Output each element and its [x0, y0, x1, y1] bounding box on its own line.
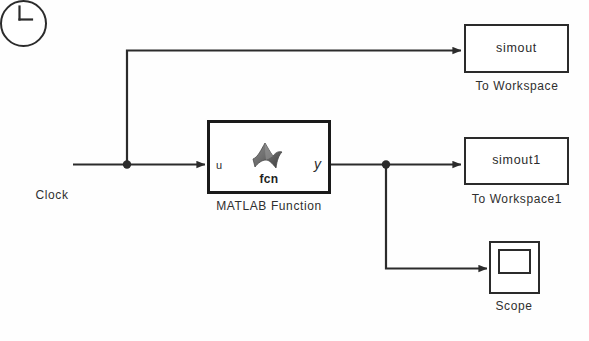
simulink-diagram-canvas: Clock u y fcn MATLAB Function simout To … [0, 0, 589, 341]
to-workspace1-block-caption: To Workspace1 [446, 193, 588, 205]
to-workspace-variable-label: simout [466, 41, 567, 55]
to-workspace1-variable-label: simout1 [466, 153, 567, 167]
to-workspace1-block[interactable]: simout1 [464, 137, 569, 185]
to-workspace-block[interactable]: simout [464, 24, 569, 73]
output-port-label-y: y [314, 156, 321, 172]
scope-block[interactable] [489, 241, 540, 294]
to-workspace-block-caption: To Workspace [446, 80, 588, 92]
matlab-function-block-caption: MATLAB Function [194, 200, 344, 212]
signal-junction-dot-output [382, 160, 390, 168]
scope-screen-icon [498, 249, 531, 274]
matlab-function-block[interactable]: u y fcn [207, 120, 331, 194]
matlab-membrane-icon [251, 139, 287, 172]
scope-block-caption: Scope [474, 300, 554, 312]
clock-block-caption: Clock [12, 189, 92, 201]
input-port-label-u: u [216, 159, 222, 171]
signal-junction-dot-input [123, 160, 131, 168]
clock-face-icon [0, 0, 39, 39]
matlab-function-inner-label: fcn [210, 172, 328, 186]
